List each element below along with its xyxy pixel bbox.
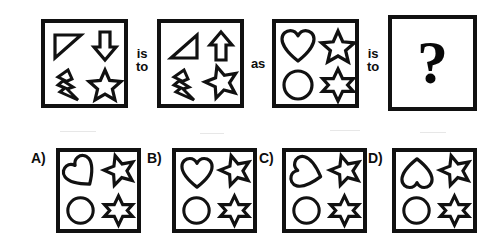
cell-bottom-left: [165, 64, 203, 105]
cell-bottom-left: [49, 64, 87, 105]
cell-bottom-right: [86, 64, 124, 105]
cell-top-left: [397, 153, 436, 192]
circle-icon: [182, 196, 211, 225]
heart-icon: [280, 29, 316, 63]
option-c-panel[interactable]: [282, 148, 367, 233]
cell-top-right: [99, 153, 138, 192]
cell-top-left: [61, 153, 100, 192]
lightning-bolt-icon: [171, 68, 197, 102]
question-mark: ?: [392, 19, 473, 107]
scan-speckle: [330, 130, 360, 131]
cell-bottom-left: [61, 191, 100, 230]
cell-top-left: [177, 153, 216, 192]
heart-icon: [400, 157, 434, 189]
scan-speckle: [60, 131, 96, 132]
cell-bottom-left: [278, 64, 318, 105]
five-point-star-icon: [434, 152, 475, 192]
six-point-star-icon: [320, 67, 356, 103]
circle-icon: [292, 196, 321, 225]
lightning-bolt-icon: [55, 68, 81, 102]
cell-top-right: [435, 153, 474, 192]
right-triangle-icon: [53, 33, 83, 60]
heart-icon: [287, 152, 327, 193]
scan-speckle: [420, 132, 446, 133]
puzzle-stage: is to as: [0, 0, 484, 243]
down-arrow-icon: [92, 30, 118, 62]
cell-top-left: [287, 153, 326, 192]
up-arrow-icon: [208, 30, 234, 62]
five-point-star-icon: [320, 29, 356, 63]
cell-bottom-right: [325, 191, 364, 230]
connector-2: as: [246, 57, 270, 70]
cell-top-right: [86, 26, 124, 66]
cell-bottom-left: [287, 191, 326, 230]
option-d-label: D): [368, 150, 383, 166]
scan-speckle: [200, 133, 224, 134]
cell-top-right: [202, 26, 240, 66]
cell-bottom-right: [215, 191, 254, 230]
option-b-label: B): [147, 150, 162, 166]
heart-icon: [57, 149, 103, 195]
option-d-panel[interactable]: [392, 148, 477, 233]
five-point-star-icon: [98, 152, 139, 192]
five-point-star-icon: [324, 152, 365, 192]
cell-bottom-left: [397, 191, 436, 230]
cell-bottom-left: [177, 191, 216, 230]
connector-1-line2: to: [131, 60, 153, 73]
option-c-label: C): [259, 150, 274, 166]
connector-3-line1: is: [362, 47, 384, 60]
five-point-star-icon: [214, 152, 255, 192]
option-b-panel[interactable]: [172, 148, 257, 233]
connector-1: is to: [131, 47, 153, 74]
panel-1: [41, 19, 128, 108]
cell-bottom-right: [99, 191, 138, 230]
option-a-panel[interactable]: [56, 148, 141, 233]
five-point-star-icon: [199, 63, 242, 106]
heart-icon: [180, 157, 214, 189]
five-point-star-icon: [88, 68, 122, 101]
six-point-star-icon: [328, 194, 361, 227]
connector-2-line1: as: [246, 57, 270, 70]
panel-4-answer-slot[interactable]: ?: [388, 15, 477, 111]
cell-top-left: [49, 26, 87, 66]
connector-1-line1: is: [131, 47, 153, 60]
connector-3-line2: to: [362, 60, 384, 73]
right-triangle-icon: [169, 33, 199, 60]
connector-3: is to: [362, 47, 384, 74]
circle-icon: [66, 196, 95, 225]
cell-top-left: [278, 26, 318, 66]
cell-bottom-right: [435, 191, 474, 230]
cell-top-right: [325, 153, 364, 192]
cell-bottom-right: [318, 64, 358, 105]
cell-top-right: [215, 153, 254, 192]
six-point-star-icon: [438, 194, 471, 227]
cell-bottom-right: [202, 64, 240, 105]
cell-top-left: [165, 26, 203, 66]
panel-2: [157, 19, 244, 108]
panel-3: [272, 19, 359, 108]
six-point-star-icon: [218, 194, 251, 227]
cell-top-right: [318, 26, 358, 66]
option-a-label: A): [31, 150, 46, 166]
circle-icon: [402, 196, 431, 225]
circle-icon: [282, 69, 314, 101]
six-point-star-icon: [102, 194, 135, 227]
